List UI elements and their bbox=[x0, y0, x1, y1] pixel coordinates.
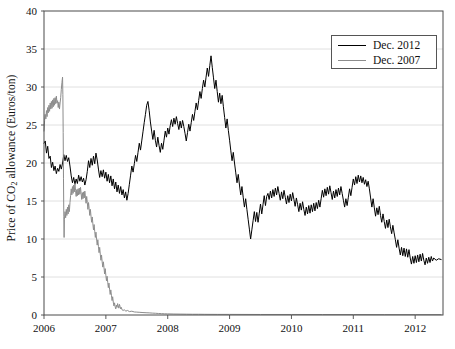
legend-label-1: Dec. 2012 bbox=[373, 40, 420, 52]
legend-label-2: Dec. 2007 bbox=[373, 55, 420, 67]
y-axis-tick-label: 10 bbox=[26, 233, 38, 245]
y-axis-tick-label: 20 bbox=[26, 157, 38, 169]
chart-figure: 0510152025303540200620072008200920102011… bbox=[0, 0, 455, 349]
y-axis-label: Price of CO2 allowance (Euros/ton) bbox=[0, 0, 24, 315]
y-axis-tick-label: 0 bbox=[32, 309, 38, 321]
x-axis-tick-label: 2009 bbox=[219, 322, 242, 334]
x-axis-tick-label: 2011 bbox=[343, 322, 365, 334]
y-axis-tick-label: 30 bbox=[26, 81, 38, 93]
x-axis-tick-label: 2006 bbox=[33, 322, 56, 334]
y-axis-tick-label: 25 bbox=[26, 119, 38, 131]
y-axis-tick-label: 15 bbox=[26, 195, 38, 207]
legend-entry-2: Dec. 2007 bbox=[332, 53, 436, 68]
x-axis-tick-label: 2010 bbox=[280, 322, 303, 334]
legend-entry-1: Dec. 2012 bbox=[332, 38, 436, 53]
y-axis-tick-label: 35 bbox=[26, 43, 38, 55]
legend-swatch-2 bbox=[338, 60, 366, 61]
legend-swatch-1 bbox=[338, 45, 366, 46]
y-axis-label-prefix: Price of CO bbox=[5, 185, 17, 241]
x-axis-tick-label: 2008 bbox=[157, 322, 180, 334]
x-axis-tick-label: 2012 bbox=[404, 322, 426, 334]
x-axis-tick-label: 2007 bbox=[95, 322, 118, 334]
y-axis-label-suffix: allowance (Euros/ton) bbox=[5, 74, 17, 181]
chart-legend: Dec. 2012Dec. 2007 bbox=[331, 35, 437, 69]
y-axis-tick-label: 40 bbox=[26, 5, 38, 17]
y-axis-tick-label: 5 bbox=[32, 271, 38, 283]
